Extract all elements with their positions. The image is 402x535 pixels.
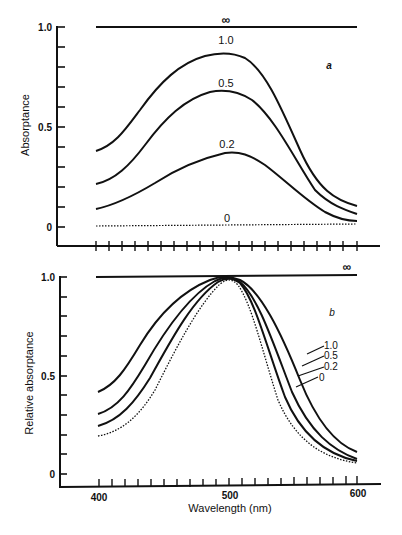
panel-b-xtick-500: 500: [222, 490, 239, 501]
panel-a-curve-0: [96, 224, 357, 226]
panel-a-letter: a: [326, 60, 332, 71]
panel-a-curve-0-2: [96, 153, 357, 222]
panel-b-label-0: 0: [319, 372, 325, 383]
panel-b-xlabel: Wavelength (nm): [188, 502, 271, 514]
panel-a-label-0: 0: [224, 212, 230, 224]
panel-b-xtick-400: 400: [91, 492, 108, 503]
panel-a-y-ticks: [57, 27, 65, 227]
panel-b-ytick-1: 1.0: [41, 272, 55, 283]
panel-b-xtick-600: 600: [350, 488, 367, 499]
panel-b-letter: b: [329, 307, 335, 318]
figure: 1.0 0.5 0 Absorptance ∞ 1.0 0.5 0.2 0 a: [0, 0, 402, 535]
panel-b-label-inf: ∞: [343, 260, 352, 274]
panel-a-label-inf: ∞: [222, 13, 231, 27]
panel-a-ytick-0: 0: [46, 222, 52, 233]
panel-b-label-0-2: 0.2: [324, 361, 338, 372]
panel-b-ytick-0: 0: [49, 469, 55, 480]
panel-b-curve-0-5: [98, 278, 357, 459]
panel-a-ylabel: Absorptance: [19, 94, 31, 156]
panel-a-ytick-1: 1.0: [38, 22, 52, 33]
panel-b-label-0-5: 0.5: [324, 350, 338, 361]
panel-b-curve-1-0: [98, 277, 357, 452]
panel-a-label-0-2: 0.2: [219, 138, 234, 150]
panel-b-y-ticks: [60, 277, 67, 474]
panel-a-label-1-0: 1.0: [218, 34, 233, 46]
panel-a-label-0-5: 0.5: [218, 77, 233, 89]
panel-b-ytick-0-5: 0.5: [41, 371, 55, 382]
panel-a-ytick-0-5: 0.5: [38, 122, 52, 133]
panel-b-ylabel: Relative absorptance: [23, 331, 35, 434]
